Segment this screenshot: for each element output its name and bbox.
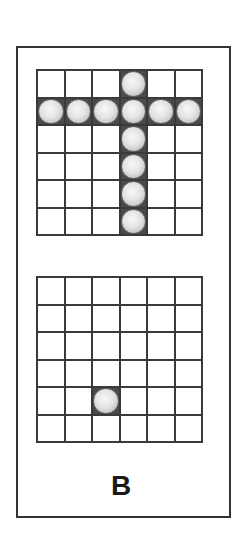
grid-cell: [93, 278, 119, 304]
grid-cell: [148, 416, 174, 442]
grid-cell: [121, 306, 147, 332]
grid-cell: [93, 71, 119, 97]
ball-icon: [121, 154, 147, 180]
grid-cell: [148, 388, 174, 414]
grid-cell: [148, 99, 174, 125]
grid-cell: [93, 181, 119, 207]
grid-cell: [38, 306, 64, 332]
grid-cell: [176, 154, 202, 180]
ball-icon: [93, 99, 119, 125]
grid-cell: [121, 333, 147, 359]
grid-cell: [66, 209, 92, 235]
grid-cell: [148, 333, 174, 359]
grid-cell: [148, 361, 174, 387]
grid-cell: [38, 181, 64, 207]
figure-label: B: [0, 470, 242, 502]
grid-cell: [93, 126, 119, 152]
ball-icon: [121, 99, 147, 125]
grid-cell: [148, 71, 174, 97]
grid-cell: [176, 388, 202, 414]
grid-cell: [66, 278, 92, 304]
grid-cell: [148, 126, 174, 152]
grid-cell: [121, 278, 147, 304]
grid-cell: [66, 306, 92, 332]
grid-cell: [66, 388, 92, 414]
ball-icon: [93, 388, 119, 414]
grid-cell: [148, 181, 174, 207]
grid-cell: [38, 333, 64, 359]
grid-cell: [38, 99, 64, 125]
grid-cell: [66, 99, 92, 125]
grid-cell: [93, 333, 119, 359]
grid-cell: [121, 416, 147, 442]
grid-cell: [121, 388, 147, 414]
grid-cell: [121, 126, 147, 152]
ball-icon: [121, 181, 147, 207]
ball-icon: [148, 99, 174, 125]
grid-cell: [176, 416, 202, 442]
grid-cell: [121, 361, 147, 387]
grid-cell: [38, 278, 64, 304]
grid-cell: [148, 154, 174, 180]
grid-cell: [93, 361, 119, 387]
top-grid: [36, 69, 203, 236]
grid-cell: [66, 126, 92, 152]
grid-cell: [148, 209, 174, 235]
grid-cell: [148, 306, 174, 332]
grid-cell: [176, 181, 202, 207]
grid-cell: [38, 209, 64, 235]
grid-cell: [176, 278, 202, 304]
grid-cell: [38, 361, 64, 387]
grid-cell: [121, 71, 147, 97]
ball-icon: [121, 209, 147, 235]
grid-cell: [66, 333, 92, 359]
grid-cell: [176, 126, 202, 152]
grid-cell: [176, 306, 202, 332]
grid-cell: [176, 99, 202, 125]
grid-cell: [38, 154, 64, 180]
grid-cell: [93, 99, 119, 125]
grid-cell: [121, 209, 147, 235]
ball-icon: [66, 99, 92, 125]
grid-cell: [93, 209, 119, 235]
grid-cell: [176, 333, 202, 359]
grid-cell: [66, 361, 92, 387]
grid-cell: [38, 71, 64, 97]
ball-icon: [121, 126, 147, 152]
ball-icon: [121, 71, 147, 97]
grid-cell: [93, 154, 119, 180]
grid-cell: [176, 361, 202, 387]
grid-cell: [93, 306, 119, 332]
ball-icon: [38, 99, 64, 125]
grid-cell: [66, 416, 92, 442]
grid-cell: [121, 181, 147, 207]
grid-cell: [121, 99, 147, 125]
grid-cell: [38, 416, 64, 442]
grid-cell: [176, 209, 202, 235]
grid-cell: [176, 71, 202, 97]
grid-cell: [38, 126, 64, 152]
ball-icon: [176, 99, 202, 125]
grid-cell: [93, 416, 119, 442]
bottom-grid: [36, 276, 203, 443]
grid-cell: [93, 388, 119, 414]
grid-cell: [66, 154, 92, 180]
grid-cell: [66, 71, 92, 97]
grid-cell: [38, 388, 64, 414]
grid-cell: [121, 154, 147, 180]
grid-cell: [148, 278, 174, 304]
grid-cell: [66, 181, 92, 207]
